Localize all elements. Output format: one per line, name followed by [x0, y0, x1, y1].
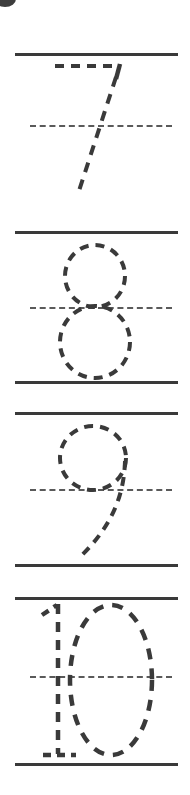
traceable-digit-nine[interactable]: [0, 400, 190, 585]
zero-oval-loop: [70, 605, 152, 755]
nine-bowl-loop: [60, 426, 126, 490]
traceable-digit-ten[interactable]: [0, 585, 190, 795]
eight-lower-loop: [60, 306, 130, 378]
tracing-row-eight: [0, 220, 190, 400]
tracing-row-ten: [0, 585, 190, 795]
one-flag-stroke: [42, 605, 57, 615]
eight-upper-loop: [65, 245, 125, 307]
worksheet-page: [0, 0, 190, 795]
traceable-digit-seven[interactable]: [0, 0, 190, 220]
nine-tail-stroke: [80, 461, 125, 557]
tracing-row-nine: [0, 400, 190, 585]
seven-corner-stroke: [116, 64, 120, 79]
seven-diagonal-stroke: [78, 77, 116, 194]
traceable-digit-eight[interactable]: [0, 220, 190, 400]
tracing-row-seven: [0, 0, 190, 220]
